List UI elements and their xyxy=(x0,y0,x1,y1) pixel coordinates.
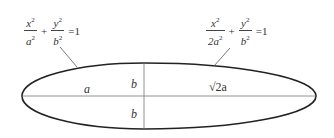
left-eq-term1: x2 a2 xyxy=(24,14,37,47)
left-eq-term2: y2 b2 xyxy=(51,14,64,47)
equals-one: =1 xyxy=(68,25,80,37)
plus-sign: + xyxy=(41,25,47,37)
plus-sign: + xyxy=(229,25,235,37)
label-sqrt2a: √2a xyxy=(209,81,227,93)
label-b-lower: b xyxy=(131,108,137,120)
right-eq-term2: y2 b2 xyxy=(239,14,252,47)
right-eq-term1: x2 2a2 xyxy=(206,14,225,47)
exponent: 2 xyxy=(32,34,36,42)
exponent: 2 xyxy=(219,34,223,42)
exponent: 2 xyxy=(246,16,250,24)
exponent: 2 xyxy=(58,16,62,24)
denominator: 2a xyxy=(208,34,219,46)
label-a: a xyxy=(84,83,90,95)
exponent: 2 xyxy=(246,34,250,42)
left-leader-line xyxy=(60,47,77,67)
equals-one: =1 xyxy=(256,25,268,37)
label-b-upper: b xyxy=(131,78,137,90)
exponent: 2 xyxy=(59,34,63,42)
exponent: 2 xyxy=(216,16,220,24)
exponent: 2 xyxy=(31,16,35,24)
right-leader-line xyxy=(214,48,230,66)
right-equation: x2 2a2 + y2 b2 =1 xyxy=(204,14,269,47)
left-equation: x2 a2 + y2 b2 =1 xyxy=(22,14,82,47)
